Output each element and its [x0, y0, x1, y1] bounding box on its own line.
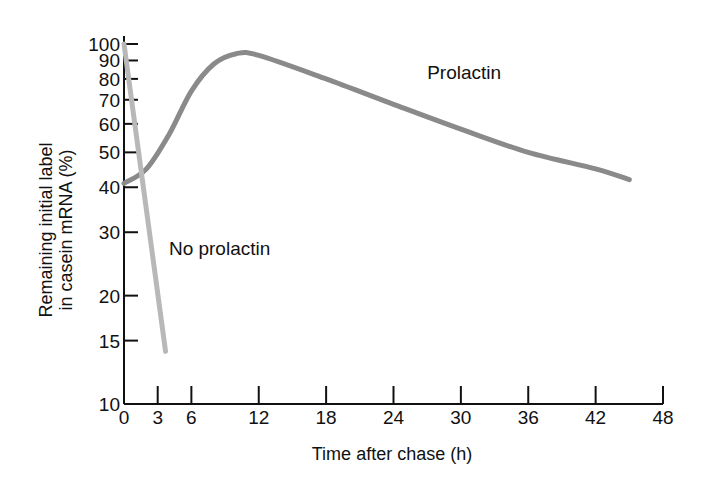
y-tick-label: 70 [99, 90, 120, 111]
annotation-no-prolactin: No prolactin [169, 238, 270, 259]
x-tick-label: 24 [383, 407, 405, 428]
y-tick-label: 10 [99, 394, 120, 415]
y-tick-label: 60 [99, 114, 120, 135]
y-tick-label: 100 [88, 34, 120, 55]
x-tick-label: 42 [585, 407, 606, 428]
series-line-prolactin [124, 52, 629, 183]
y-tick-label: 20 [99, 286, 120, 307]
x-tick-label: 12 [248, 407, 269, 428]
x-tick-label: 30 [450, 407, 471, 428]
x-tick-label: 18 [316, 407, 337, 428]
y-tick-label: 30 [99, 222, 120, 243]
x-tick-label: 48 [652, 407, 673, 428]
annotation-prolactin: Prolactin [427, 62, 501, 83]
x-tick-label: 3 [152, 407, 163, 428]
series-lines: ProlactinNo prolactin [124, 44, 629, 351]
x-tick-label: 0 [119, 407, 130, 428]
y-tick-label: 50 [99, 142, 120, 163]
x-tick-label: 6 [186, 407, 197, 428]
y-axis-label-line1: Remaining initial label [36, 142, 56, 317]
y-tick-label: 15 [99, 331, 120, 352]
y-axis-label-line2: in casein mRNA (%) [56, 149, 76, 310]
x-axis-label: Time after chase (h) [312, 444, 472, 464]
y-tick-label: 40 [99, 177, 120, 198]
chart: 1015203040506070809010003612182430364248… [0, 0, 720, 490]
x-tick-label: 36 [518, 407, 539, 428]
y-tick-label: 80 [99, 69, 120, 90]
axes: 1015203040506070809010003612182430364248 [88, 34, 673, 428]
series-line-no-prolactin [124, 44, 166, 351]
